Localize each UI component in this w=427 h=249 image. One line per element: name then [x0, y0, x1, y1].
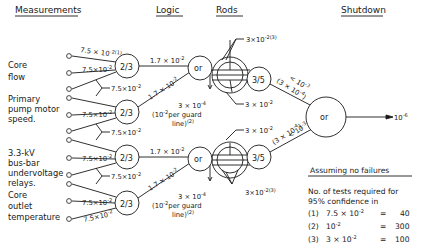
- measurement-pump-3: speed.: [8, 114, 36, 124]
- guard-value: 3 × 10-4: [178, 191, 206, 201]
- rod-gate-label: 3/5: [252, 154, 265, 163]
- measurement-pump-1: Primary: [8, 94, 40, 104]
- logic-to-or-value: 1.7 × 10-2: [150, 146, 184, 156]
- rod-mid-value: 3 × 10-2: [245, 125, 273, 135]
- measurement-terminals: [67, 54, 72, 222]
- rod-value: 3×10-2(3): [246, 34, 277, 44]
- assumption-row: (3) 3 × 10-2 = 100: [308, 234, 410, 244]
- or-label: or: [194, 155, 203, 164]
- channel-value: 7.5×10-2: [82, 109, 112, 119]
- guard-note: line)(2): [172, 118, 194, 128]
- top-note-value: 7.5 × 10-2(1): [80, 44, 123, 60]
- assumptions: Assuming no failures No. of tests requir…: [308, 166, 412, 244]
- measurement-busbar-4: relays.: [8, 178, 36, 188]
- gate-label: 2/3: [120, 154, 133, 163]
- rod-assembly-top: [212, 39, 250, 104]
- terminal: [67, 96, 72, 101]
- header-measurements: Measurements: [15, 5, 82, 15]
- rod-value: 3×10-2(3): [245, 187, 276, 197]
- terminal: [67, 54, 72, 59]
- measurement-core-flow-1: Core: [8, 60, 27, 70]
- svg-text:(3): (3): [308, 235, 319, 244]
- measurement-labels: Core flow Primary pump motor speed. 3.3-…: [8, 60, 63, 222]
- measurement-busbar-1: 3.3-kV: [8, 148, 35, 158]
- measurement-core-outlet-3: temperature: [8, 212, 60, 222]
- svg-text:=: =: [380, 235, 386, 244]
- terminal: [67, 217, 72, 222]
- svg-text:3 × 10-2: 3 × 10-2: [326, 234, 357, 244]
- terminal: [67, 199, 72, 204]
- channel-value: 7.5×10-2: [82, 64, 112, 74]
- reliability-diagram: Measurements Logic Rods Shutdown Core fl…: [0, 0, 427, 249]
- or-label: or: [194, 64, 203, 73]
- terminal: [67, 129, 72, 134]
- assumptions-intro-1: No. of tests required for: [308, 187, 399, 196]
- svg-text:(2): (2): [308, 222, 319, 231]
- terminal: [67, 113, 72, 118]
- measurement-core-flow-2: flow: [8, 72, 25, 82]
- svg-text:10-2: 10-2: [326, 221, 341, 231]
- between-value: 7.5×10-2: [111, 171, 141, 181]
- input-wires: [72, 56, 116, 219]
- shutdown-or-label: or: [320, 113, 329, 122]
- rod-gate-label: 3/5: [252, 76, 265, 85]
- terminal: [67, 182, 72, 187]
- logic-to-or-value: 1.7 × 10-2: [146, 75, 181, 102]
- header-rods: Rods: [216, 5, 238, 15]
- gate-label: 2/3: [120, 63, 133, 72]
- shutdown-output: 10-6: [394, 112, 408, 122]
- channel-braces: [96, 80, 110, 184]
- header-logic: Logic: [156, 5, 180, 15]
- logic-to-or-value: 1.7 × 10-2: [150, 55, 184, 65]
- rod-assembly-bottom: [212, 130, 250, 184]
- svg-text:(1): (1): [308, 209, 319, 218]
- terminal: [67, 71, 72, 76]
- assumption-row: (2) 10-2 = 300: [308, 221, 410, 231]
- guard-note: line)(2): [172, 209, 194, 219]
- measurement-core-outlet-2: outlet: [8, 201, 33, 211]
- svg-text:300: 300: [395, 222, 410, 231]
- channel-value: 7.5×10-2: [82, 197, 112, 207]
- terminal: [67, 87, 72, 92]
- svg-text:7.5 × 10-2: 7.5 × 10-2: [326, 208, 364, 218]
- measurement-busbar-3: undervoltage: [8, 168, 63, 178]
- channel-value: 7.5×10-2: [82, 153, 112, 163]
- terminal: [67, 138, 72, 143]
- measurement-busbar-2: bus-bar: [8, 158, 40, 168]
- header-shutdown: Shutdown: [341, 5, 386, 15]
- guard-value: 3 × 10-4: [178, 100, 206, 110]
- measurement-core-outlet-1: Core: [8, 190, 27, 200]
- guard-note: (10-2per guard: [152, 109, 202, 119]
- rods-values: 3×10-2(3) 3 × 10-2 3 × 10-2 3×10-2(3) < …: [245, 34, 311, 197]
- gate-label: 2/3: [120, 200, 133, 209]
- assumption-row: (1) 7.5 × 10-2 = 40: [308, 208, 410, 218]
- svg-text:=: =: [380, 222, 386, 231]
- svg-text:100: 100: [395, 235, 410, 244]
- rod-gates: 3/5 3/5: [247, 67, 271, 169]
- svg-text:40: 40: [400, 209, 410, 218]
- between-value: 7.5×10-2: [111, 83, 141, 93]
- guard-note: (10-2per guard: [152, 200, 202, 210]
- terminal: [67, 156, 72, 161]
- assumptions-title: Assuming no failures: [310, 166, 389, 175]
- svg-text:=: =: [380, 209, 386, 218]
- between-value: 7.5×10-2: [111, 127, 141, 137]
- gate-label: 2/3: [120, 109, 133, 118]
- rod-mid-value: 3 × 10-2: [245, 99, 273, 109]
- measurement-pump-2: pump motor: [8, 104, 60, 114]
- logic-to-or-value: 1.7 × 10-2: [146, 166, 181, 193]
- headers: Measurements Logic Rods Shutdown: [15, 5, 386, 16]
- channel-value: 7.5×10-2: [82, 208, 114, 224]
- terminal: [67, 173, 72, 178]
- assumptions-intro-2: 95% confidence in: [308, 197, 378, 206]
